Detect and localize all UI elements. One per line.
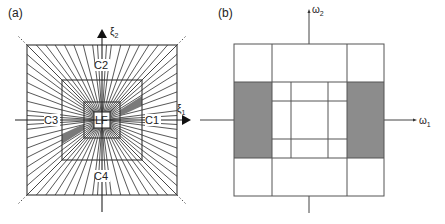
panel-a-label: (a)	[8, 6, 23, 20]
omega2-arrow-icon	[308, 9, 311, 13]
omega1-label: ω1	[419, 115, 431, 128]
region-c3-label: C3	[44, 114, 58, 126]
xi2-arrow-icon	[97, 29, 107, 38]
omega1-arrow-icon	[413, 119, 417, 122]
xi1-arrow-icon	[182, 115, 191, 125]
region-c4-label: C4	[94, 170, 108, 182]
xi2-label: ξ2	[110, 26, 118, 39]
panel-b: (b) ω1 ω2	[200, 4, 431, 213]
region-lf-label: LF	[95, 114, 108, 126]
figure: (a) ξ2 ξ1 C2 C3	[0, 0, 445, 224]
shaded-subbands	[234, 82, 384, 158]
xi1-label: ξ1	[177, 103, 185, 116]
panel-b-label: (b)	[218, 6, 233, 20]
shaded-subband-left	[234, 82, 272, 158]
omega2-label: ω2	[312, 4, 324, 17]
region-c1-label: C1	[145, 114, 159, 126]
shaded-subband-right	[347, 82, 384, 158]
region-c2-label: C2	[94, 59, 108, 71]
panel-a: (a) ξ2 ξ1 C2 C3	[8, 6, 191, 212]
